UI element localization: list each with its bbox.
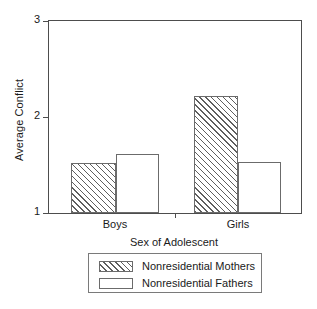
x-tick-label-boys: Boys [103,219,127,230]
chart-legend: Nonresidential Mothers Nonresidential Fa… [88,253,262,293]
bar-girls-nonresidential-fathers [238,162,281,213]
x-axis-title-text: Sex of Adolescent [130,236,218,248]
plot-area: 3 2 1 Boys Girls [49,21,301,213]
legend-item-nonresidential-fathers: Nonresidential Fathers [99,275,261,291]
y-tick-2: 2 [43,117,49,118]
y-tick-label-3: 3 [34,14,40,25]
y-tick-label-2: 2 [34,110,40,121]
legend-swatch-hatched-icon [99,261,133,272]
x-axis-title: Sex of Adolescent [48,236,300,248]
legend-swatch-white-icon [99,278,133,289]
y-tick-1: 1 [43,213,49,214]
bar-boys-nonresidential-fathers [116,154,159,213]
plot-frame: 3 2 1 Boys Girls [48,20,302,214]
bar-boys-nonresidential-mothers [71,163,116,213]
y-axis-title: Average Conflict [10,60,28,180]
bar-girls-nonresidential-mothers [194,96,238,213]
y-axis-title-text: Average Conflict [13,79,25,161]
y-tick-label-1: 1 [34,206,40,217]
x-tick-divider [175,213,176,218]
x-tick-label-girls: Girls [227,219,250,230]
legend-label-nonresidential-mothers: Nonresidential Mothers [142,261,255,272]
bar-chart-figure: Average Conflict 3 2 1 Boys Girls [0,0,317,309]
legend-item-nonresidential-mothers: Nonresidential Mothers [99,258,261,274]
legend-label-nonresidential-fathers: Nonresidential Fathers [142,278,253,289]
y-tick-3: 3 [43,21,49,22]
